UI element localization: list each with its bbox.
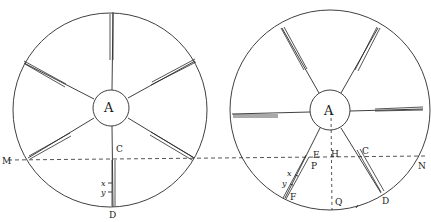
right-spoke-upleft [282,28,319,93]
label-N: N [418,161,426,171]
right-label-D: D [382,196,389,206]
left-label-y: y [100,188,106,197]
right-label-H: H [331,149,339,159]
left-label-C: C [116,144,123,154]
right-spoke-left [232,112,310,114]
left-label-x: x [101,179,106,188]
wheels-diagram: A M C D x y A E H C P N x y F Q D [0,0,431,222]
diagram-canvas: A M C D x y A E H C P N x y F Q D [0,0,431,222]
right-label-P: P [311,161,317,171]
right-tick-x [295,175,298,176]
left-spoke-upleft [24,63,94,99]
right-label-Q: Q [335,197,342,207]
left-hub-label: A [103,100,114,115]
right-label-F: F [290,192,296,202]
right-label-x: x [287,169,292,178]
right-label-E: E [313,150,320,160]
left-label-D: D [109,210,116,220]
right-label-C: C [362,146,369,156]
right-label-y: y [281,179,287,188]
label-M: M [2,156,11,166]
right-spoke-downright [341,128,381,193]
right-hub-label: A [323,103,334,118]
